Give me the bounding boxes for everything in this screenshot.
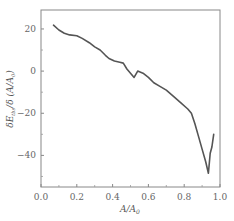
x-axis-label: A/A0 bbox=[119, 204, 140, 215]
y-tick-label: −20 bbox=[17, 108, 36, 118]
y-tick-label: 20 bbox=[25, 24, 37, 34]
x-tick-label: 0.0 bbox=[34, 192, 49, 202]
plot-frame bbox=[41, 10, 220, 187]
x-tick-label: 0.2 bbox=[70, 192, 84, 202]
line-chart: 0.00.20.40.60.81.0 200−20−40 A/A0 δEtbs/… bbox=[0, 0, 234, 221]
y-axis-ticks: 200−20−40 bbox=[17, 24, 44, 177]
x-tick-label: 0.6 bbox=[141, 192, 156, 202]
y-tick-label: 0 bbox=[30, 66, 36, 76]
y-axis-label: δEtbs/δ (A/A0) bbox=[5, 70, 16, 128]
y-tick-label: −40 bbox=[17, 150, 36, 160]
data-line bbox=[54, 25, 214, 173]
x-tick-label: 0.4 bbox=[105, 192, 120, 202]
x-tick-label: 1.0 bbox=[213, 192, 228, 202]
x-tick-label: 0.8 bbox=[177, 192, 192, 202]
